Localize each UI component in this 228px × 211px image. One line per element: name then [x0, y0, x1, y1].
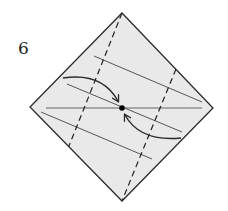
fold-diagram	[0, 0, 228, 211]
center-dot	[119, 105, 125, 111]
